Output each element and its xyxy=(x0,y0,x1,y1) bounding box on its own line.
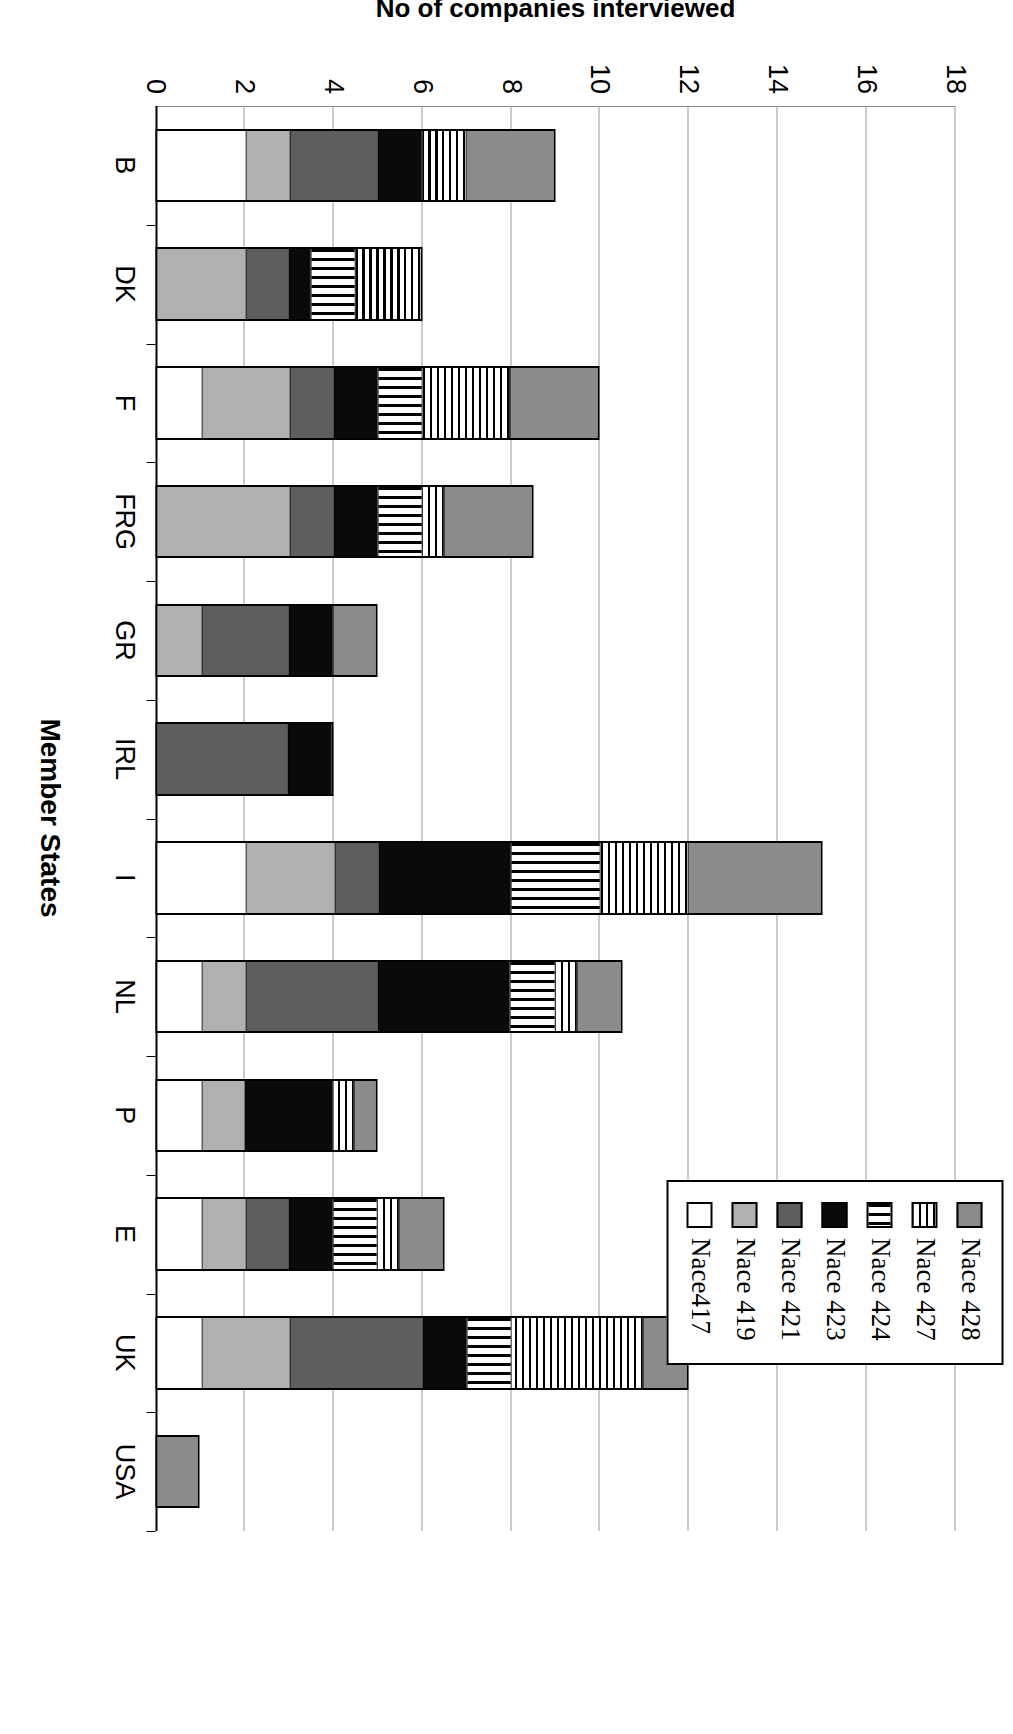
bar-segment-nace428 xyxy=(443,487,531,557)
category-label-B: B xyxy=(108,156,139,174)
bar-segment-nace419 xyxy=(245,843,333,913)
value-tick-label: 6 xyxy=(406,79,437,94)
bar-segment-nace423 xyxy=(377,131,421,201)
category-tick xyxy=(146,462,155,463)
bar-segment-nace419 xyxy=(157,487,289,557)
category-label-IRL: IRL xyxy=(108,738,139,780)
bar-segment-nace417 xyxy=(157,962,201,1032)
bar-P xyxy=(155,1079,377,1153)
bar-segment-nace419 xyxy=(157,249,245,319)
legend: Nace 428Nace 427Nace 424Nace 423Nace 421… xyxy=(666,1180,1003,1365)
category-label-DK: DK xyxy=(108,265,139,303)
bar-segment-nace428 xyxy=(576,962,620,1032)
category-tick xyxy=(146,1531,155,1532)
legend-item-nace424[interactable]: Nace 424 xyxy=(864,1202,895,1341)
rotated-figure: No of companies interviewed Member State… xyxy=(0,0,1013,1734)
bar-segment-nace427 xyxy=(421,131,465,201)
bar-segment-nace427 xyxy=(554,962,576,1032)
value-tick-label: 16 xyxy=(851,64,882,94)
bar-segment-nace421 xyxy=(289,368,333,438)
bar-DK xyxy=(155,247,422,321)
legend-label: Nace 424 xyxy=(864,1238,895,1341)
bar-segment-nace424 xyxy=(377,487,421,557)
bar-segment-nace423 xyxy=(377,962,509,1032)
bar-E xyxy=(155,1197,444,1271)
bar-segment-nace424 xyxy=(377,368,421,438)
category-tick xyxy=(146,1294,155,1295)
category-tick xyxy=(146,225,155,226)
legend-item-nace427[interactable]: Nace 427 xyxy=(909,1202,940,1341)
bar-segment-nace424 xyxy=(466,1318,510,1388)
bar-USA xyxy=(155,1435,199,1509)
value-tick-label: 0 xyxy=(140,79,171,94)
legend-swatch-icon xyxy=(822,1202,848,1228)
bar-FRG xyxy=(155,485,533,559)
bar-segment-nace424 xyxy=(310,249,354,319)
bar-segment-nace427 xyxy=(376,1199,398,1269)
bar-segment-nace421 xyxy=(157,724,287,794)
legend-swatch-icon xyxy=(732,1202,758,1228)
bar-segment-nace417 xyxy=(157,368,201,438)
bar-segment-nace423 xyxy=(422,1318,466,1388)
bar-NL xyxy=(155,960,622,1034)
bar-segment-nace427 xyxy=(510,1318,642,1388)
bar-F xyxy=(155,366,599,440)
bar-I xyxy=(155,841,822,915)
bar-segment-nace427 xyxy=(421,368,509,438)
bar-segment-nace417 xyxy=(157,1199,201,1269)
legend-swatch-icon xyxy=(777,1202,803,1228)
category-label-I: I xyxy=(108,874,139,882)
bar-segment-nace423 xyxy=(378,843,511,913)
chart-canvas: No of companies interviewed Member State… xyxy=(0,0,1013,1734)
category-tick xyxy=(146,344,155,345)
bar-segment-nace421 xyxy=(201,606,288,676)
bar-segment-nace419 xyxy=(201,1318,289,1388)
bar-segment-nace419 xyxy=(157,606,201,676)
legend-item-nace421[interactable]: Nace 421 xyxy=(774,1202,805,1341)
bar-segment-nace421 xyxy=(334,843,378,913)
legend-label: Nace 419 xyxy=(729,1238,760,1341)
bar-segment-nace427 xyxy=(354,249,420,319)
legend-swatch-icon xyxy=(957,1202,983,1228)
legend-item-nace417[interactable]: Nace417 xyxy=(684,1202,715,1341)
bar-segment-nace427 xyxy=(332,1081,354,1151)
bar-segment-nace419 xyxy=(201,1081,245,1151)
bar-segment-nace423 xyxy=(244,1081,331,1151)
bar-segment-nace421 xyxy=(245,249,289,319)
category-label-UK: UK xyxy=(108,1334,139,1372)
bar-GR xyxy=(155,604,377,678)
bar-segment-nace421 xyxy=(289,1318,421,1388)
bar-segment-nace428 xyxy=(157,1437,197,1507)
legend-label: Nace 421 xyxy=(774,1238,805,1341)
legend-label: Nace 427 xyxy=(909,1238,940,1341)
category-label-USA: USA xyxy=(108,1444,139,1500)
bar-segment-nace421 xyxy=(245,962,377,1032)
legend-item-nace419[interactable]: Nace 419 xyxy=(729,1202,760,1341)
bar-segment-nace428 xyxy=(398,1199,442,1269)
category-label-FRG: FRG xyxy=(108,493,139,550)
bar-segment-nace428 xyxy=(509,368,597,438)
legend-swatch-icon xyxy=(687,1202,713,1228)
bar-UK xyxy=(155,1316,688,1390)
category-axis-title: Member States xyxy=(33,718,65,917)
bar-segment-nace417 xyxy=(157,843,245,913)
legend-label: Nace 428 xyxy=(954,1238,985,1341)
bar-segment-nace424 xyxy=(510,843,598,913)
category-tick xyxy=(146,1056,155,1057)
category-label-NL: NL xyxy=(108,979,139,1014)
category-label-E: E xyxy=(108,1225,139,1243)
bar-segment-nace419 xyxy=(201,962,245,1032)
bar-IRL xyxy=(155,722,333,796)
bar-segment-nace428 xyxy=(332,606,376,676)
legend-item-nace423[interactable]: Nace 423 xyxy=(819,1202,850,1341)
bar-segment-nace419 xyxy=(201,1199,245,1269)
bar-segment-nace423 xyxy=(333,487,377,557)
value-tick-label: 18 xyxy=(940,64,971,94)
bar-segment-nace421 xyxy=(289,487,333,557)
bar-segment-nace424 xyxy=(510,962,554,1032)
bar-segment-nace417 xyxy=(157,131,245,201)
legend-item-nace428[interactable]: Nace 428 xyxy=(954,1202,985,1341)
bar-segment-nace428 xyxy=(687,843,820,913)
category-label-GR: GR xyxy=(108,620,139,661)
bar-segment-nace423 xyxy=(288,606,332,676)
